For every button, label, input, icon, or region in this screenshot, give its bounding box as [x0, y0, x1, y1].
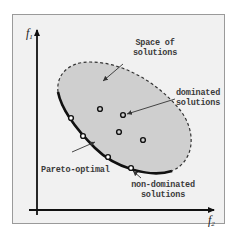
dominated-line1: dominated — [171, 88, 225, 98]
non-dominated-solutions-label: non-dominated solutions — [126, 180, 200, 200]
non-dominated-point — [81, 134, 86, 139]
dominated-point — [117, 130, 122, 135]
space-of-solutions-line1: Space of — [127, 38, 183, 48]
non-dominated-point — [129, 166, 134, 171]
pareto-diagram — [0, 0, 239, 244]
dominated-line2: solutions — [171, 98, 225, 108]
y-axis-label: f1 — [26, 27, 33, 43]
pareto-optimal-text: Pareto-optimal — [41, 165, 110, 175]
non-dominated-point — [106, 155, 111, 160]
non-dominated-line2: solutions — [126, 190, 200, 200]
x-axis-label-subscript: 2 — [211, 220, 215, 228]
non-dominated-point — [69, 116, 74, 121]
space-of-solutions-line2: solutions — [127, 48, 183, 58]
space-of-solutions-label: Space of solutions — [127, 38, 183, 58]
dominated-point — [98, 107, 103, 112]
dominated-point — [141, 138, 146, 143]
non-dominated-line1: non-dominated — [126, 180, 200, 190]
pareto-optimal-pointer — [72, 142, 95, 152]
dominated-solutions-label: dominated solutions — [171, 88, 225, 108]
dominated-point — [121, 113, 126, 118]
x-axis-label: f2 — [208, 214, 215, 230]
pareto-optimal-label: Pareto-optimal — [41, 165, 113, 175]
y-axis-label-subscript: 1 — [29, 33, 33, 41]
